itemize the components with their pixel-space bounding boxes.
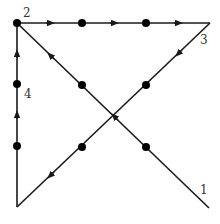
dot-icon bbox=[142, 143, 150, 151]
dot-icon bbox=[78, 143, 86, 151]
label-4: 4 bbox=[24, 87, 32, 101]
dot-icon bbox=[142, 81, 150, 89]
nine-dots-diagram: 1 2 3 4 bbox=[0, 0, 220, 224]
label-1: 1 bbox=[200, 183, 208, 197]
dot-icon bbox=[78, 81, 86, 89]
dot-icon bbox=[78, 19, 86, 27]
label-3: 3 bbox=[200, 33, 208, 47]
label-2: 2 bbox=[23, 6, 31, 20]
dot-icon bbox=[13, 19, 21, 27]
dot-icon bbox=[142, 19, 150, 27]
dot-icon bbox=[13, 80, 21, 88]
dot-icon bbox=[13, 142, 21, 150]
